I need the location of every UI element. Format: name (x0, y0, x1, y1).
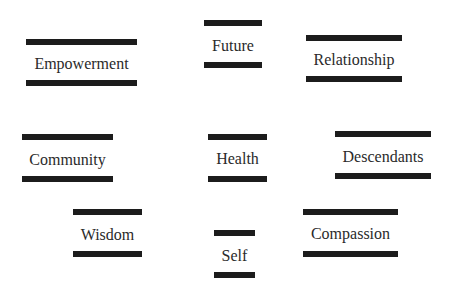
item-label: Relationship (286, 51, 422, 69)
item-label: Future (184, 37, 282, 55)
bottom-bar (26, 80, 137, 86)
bottom-bar (306, 76, 402, 82)
bottom-bar (73, 251, 142, 257)
item-label: Community (2, 151, 133, 169)
top-bar (22, 134, 113, 140)
item-label: Compassion (283, 225, 418, 243)
bottom-bar (204, 62, 262, 68)
bottom-bar (22, 176, 113, 182)
top-bar (335, 131, 431, 137)
bottom-bar (214, 272, 255, 278)
bottom-bar (208, 176, 267, 182)
item-label: Wisdom (53, 226, 162, 244)
top-bar (214, 230, 255, 236)
top-bar (208, 134, 267, 140)
item-label: Empowerment (6, 55, 157, 73)
bottom-bar (335, 173, 431, 179)
top-bar (73, 209, 142, 215)
item-label: Self (194, 247, 275, 265)
top-bar (303, 209, 398, 215)
top-bar (306, 35, 402, 41)
top-bar (26, 39, 137, 45)
item-label: Descendants (315, 148, 450, 166)
bottom-bar (303, 251, 398, 257)
top-bar (204, 20, 262, 26)
item-label: Health (188, 150, 287, 168)
